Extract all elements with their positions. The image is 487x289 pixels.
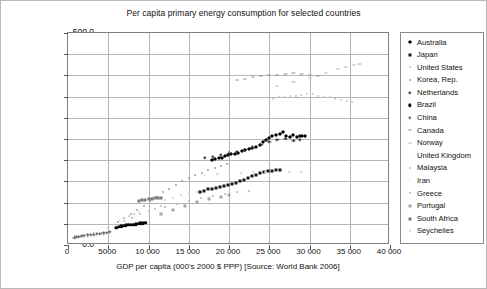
data-point [203, 189, 206, 192]
data-point [248, 190, 250, 192]
data-point [255, 173, 258, 176]
legend-item-china[interactable]: China [401, 112, 483, 125]
legend-item-seychelles[interactable]: Seychelles [401, 225, 483, 238]
data-point [207, 169, 209, 171]
data-point [160, 196, 163, 199]
gridline-horizontal [68, 75, 388, 76]
data-point [308, 74, 311, 75]
data-point [252, 172, 254, 174]
data-point [336, 69, 339, 70]
data-point [227, 184, 230, 187]
legend-label: Netherlands [417, 89, 458, 97]
x-tick-mark [350, 245, 351, 249]
data-point [351, 101, 353, 103]
legend-item-iran[interactable]: Iran [401, 175, 483, 188]
data-point [346, 100, 348, 102]
data-point [267, 170, 270, 173]
y-tick-mark [64, 203, 68, 204]
legend-item-united-kingdom[interactable]: United Kingdom [401, 149, 483, 162]
data-point [172, 197, 174, 199]
legend-label: Australia [417, 39, 447, 47]
gridline-horizontal [68, 54, 388, 55]
data-point [329, 96, 331, 98]
x-tick-label: 35 000 [337, 247, 361, 256]
legend-label: United Kingdom [417, 152, 471, 160]
data-point [211, 155, 214, 158]
data-point [344, 66, 347, 67]
data-point [227, 152, 230, 155]
legend-item-japan[interactable]: Japan [401, 49, 483, 62]
data-point [211, 187, 214, 190]
x-tick-label: 30 000 [296, 247, 320, 256]
x-tick-label: 10 000 [135, 247, 159, 256]
data-point [308, 77, 311, 78]
data-point [131, 217, 133, 219]
x-tick-mark [108, 245, 109, 249]
data-point [114, 222, 116, 224]
legend-label: Seychelles [417, 227, 454, 235]
data-point [124, 217, 126, 219]
legend-marker-icon [405, 214, 414, 223]
plot-area [67, 32, 389, 244]
data-point [181, 180, 183, 182]
legend-label: Iran [417, 177, 430, 185]
data-point [240, 172, 242, 174]
legend-item-portugal[interactable]: Portugal [401, 200, 483, 213]
legend-marker-icon [405, 113, 414, 122]
legend-marker-icon [405, 227, 414, 236]
legend-item-korea-rep[interactable]: Korea, Rep. [401, 74, 483, 87]
x-tick-mark [310, 245, 311, 249]
legend-item-greece[interactable]: Greece [401, 187, 483, 200]
legend-label: Greece [417, 190, 442, 198]
gridline-horizontal [68, 160, 388, 161]
data-point [358, 64, 361, 65]
x-tick-label: 15 000 [176, 247, 200, 256]
x-tick-mark [149, 245, 150, 249]
data-point [298, 138, 301, 141]
gridline-horizontal [68, 118, 388, 119]
data-point [214, 167, 216, 169]
data-point [164, 206, 166, 208]
y-tick-mark [64, 118, 68, 119]
data-point [115, 224, 117, 226]
legend-item-united-states[interactable]: United States [401, 61, 483, 74]
data-point [220, 165, 222, 167]
y-tick-mark [64, 160, 68, 161]
legend-label: Malaysia [417, 164, 447, 172]
data-point [200, 197, 202, 199]
chart-title: Per capita primary energy consumption fo… [1, 8, 486, 18]
y-tick-mark [64, 75, 68, 76]
x-tick-mark [390, 245, 391, 249]
legend-marker-icon [405, 101, 414, 110]
legend-marker-icon [405, 189, 414, 198]
legend-item-norway[interactable]: Norway [401, 137, 483, 150]
legend-item-brazil[interactable]: Brazil [401, 99, 483, 112]
data-point [264, 171, 266, 173]
data-point [324, 73, 327, 74]
x-tick-label: 40 000 [377, 247, 401, 256]
data-point [284, 96, 286, 98]
data-point [259, 143, 262, 146]
gridline-vertical [108, 33, 109, 243]
legend-item-malaysia[interactable]: Malaysia [401, 162, 483, 175]
legend-item-south-africa[interactable]: South Africa [401, 212, 483, 225]
x-tick-label: 25 000 [256, 247, 280, 256]
legend-item-canada[interactable]: Canada [401, 124, 483, 137]
data-point [340, 99, 342, 101]
data-point [128, 215, 130, 217]
data-point [148, 210, 150, 212]
legend-label: South Africa [417, 215, 458, 223]
legend-item-australia[interactable]: Australia [401, 36, 483, 49]
data-point [194, 174, 196, 176]
data-point [171, 209, 174, 212]
y-tick-mark [64, 181, 68, 182]
data-point [292, 139, 295, 142]
data-point [276, 86, 279, 87]
data-point [295, 95, 297, 97]
legend-item-netherlands[interactable]: Netherlands [401, 86, 483, 99]
data-point [239, 180, 242, 183]
data-point [143, 205, 145, 207]
data-point [228, 173, 230, 175]
data-point [301, 172, 303, 174]
data-point [188, 177, 190, 179]
